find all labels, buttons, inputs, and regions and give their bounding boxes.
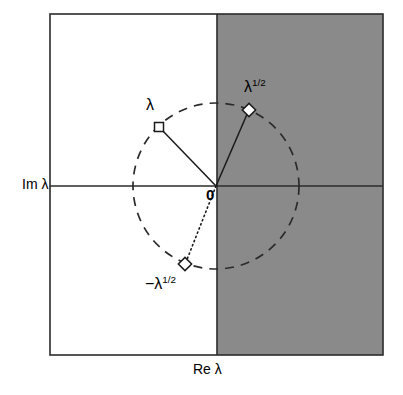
label-imaginary-axis: Im λ	[22, 177, 48, 191]
label-lambda-root-exponent: 1/2	[252, 77, 266, 88]
solid-ray-lambda	[161, 129, 216, 186]
figure-root: λ λ1/2 −λ1/2 0 Im λ Re λ	[0, 0, 403, 395]
complex-plane-figure	[0, 0, 403, 395]
square-marker-lambda	[155, 123, 164, 132]
label-neg-lambda-root: −λ1/2	[145, 275, 176, 292]
label-real-axis: Re λ	[193, 362, 222, 376]
label-lambda-root-base: λ	[244, 78, 252, 95]
label-neg-lambda-root-base: −λ	[145, 275, 162, 292]
right-half-plane-shading	[217, 14, 383, 355]
label-origin: 0	[206, 187, 214, 202]
label-lambda-root: λ1/2	[244, 78, 266, 95]
diamond-marker-neg-lambda-root	[178, 257, 191, 270]
label-lambda: λ	[146, 97, 154, 113]
label-neg-lambda-root-exponent: 1/2	[162, 274, 176, 285]
